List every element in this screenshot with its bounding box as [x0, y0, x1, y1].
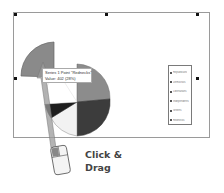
chart-legend[interactable]: Republicans Democrats Libertarians Indep… — [168, 65, 192, 125]
legend-item: Democrats — [170, 78, 190, 88]
tooltip-series-line: Series 1 Point "Rednecks" — [45, 70, 89, 76]
legend-swatch-icon — [170, 119, 172, 121]
legend-item: Rednecks — [170, 116, 190, 126]
pie-slices[interactable] — [21, 42, 110, 136]
tooltip-value-line: Value: 402 (28%) — [45, 76, 89, 82]
legend-swatch-icon — [170, 81, 172, 83]
legend-item: Greens — [170, 106, 190, 116]
legend-item: Republicans — [170, 68, 190, 78]
legend-swatch-icon — [170, 72, 172, 74]
caption-line-2: Drag — [85, 161, 122, 174]
data-point-tooltip: Series 1 Point "Rednecks" Value: 402 (28… — [42, 68, 92, 83]
legend-item: Libertarians — [170, 87, 190, 97]
legend-swatch-icon — [170, 91, 172, 93]
instruction-caption: Click & Drag — [85, 148, 122, 174]
mouse-icon — [50, 145, 71, 175]
legend-swatch-icon — [170, 100, 172, 102]
caption-line-1: Click & — [85, 148, 122, 161]
legend-swatch-icon — [170, 110, 172, 112]
legend-item: Independents — [170, 97, 190, 107]
